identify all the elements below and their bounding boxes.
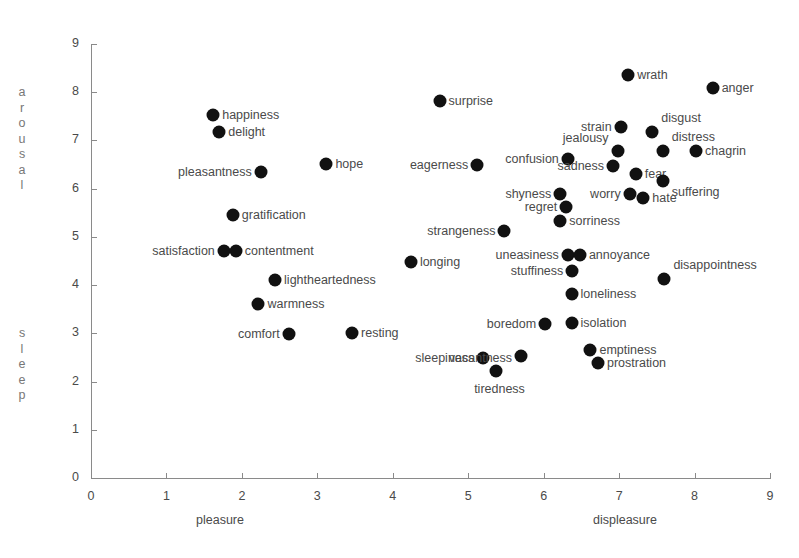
x-tick-label: 4 — [383, 489, 403, 503]
data-point-marker — [565, 287, 578, 300]
x-axis-left-label: pleasure — [196, 513, 244, 527]
data-point-label: strangeness — [427, 224, 495, 238]
y-tick-label: 7 — [59, 132, 79, 146]
data-point-label: chagrin — [705, 144, 746, 158]
y-tick-label: 9 — [59, 36, 79, 50]
data-point-label: lightheartedness — [284, 273, 376, 287]
x-axis-line — [91, 478, 771, 479]
data-point-marker — [217, 245, 230, 258]
data-point-marker — [320, 157, 333, 170]
x-tick-label: 1 — [156, 489, 176, 503]
data-point-marker — [623, 188, 636, 201]
data-point-label: distress — [672, 130, 715, 144]
data-point-marker — [269, 274, 282, 287]
y-axis-bottom-label: sleep — [14, 326, 30, 404]
data-point-label: regret — [525, 200, 558, 214]
data-point-marker — [611, 145, 624, 158]
y-axis-label-char: u — [14, 132, 30, 148]
data-point-label: disgust — [661, 111, 701, 125]
data-point-label: suffering — [672, 185, 720, 199]
x-tick-label: 8 — [685, 489, 705, 503]
data-point-marker — [614, 120, 627, 133]
data-point-marker — [226, 208, 239, 221]
data-point-label: vacantness — [449, 351, 512, 365]
data-point-marker — [658, 273, 671, 286]
x-axis-tick — [544, 473, 545, 479]
y-tick-label: 5 — [59, 229, 79, 243]
data-point-marker — [607, 159, 620, 172]
y-axis-top-label: arousal — [14, 85, 30, 194]
data-point-marker — [433, 94, 446, 107]
y-axis-tick — [91, 92, 97, 93]
data-point-label: warmness — [267, 297, 324, 311]
x-tick-label: 2 — [232, 489, 252, 503]
data-point-marker — [566, 264, 579, 277]
x-tick-label: 5 — [458, 489, 478, 503]
y-axis-tick — [91, 237, 97, 238]
y-tick-label: 3 — [59, 325, 79, 339]
y-axis-label-char: a — [14, 163, 30, 179]
data-point-marker — [656, 145, 669, 158]
x-tick-label: 0 — [81, 489, 101, 503]
y-axis-label-char: o — [14, 116, 30, 132]
y-axis-tick — [91, 189, 97, 190]
data-point-label: worry — [590, 187, 621, 201]
y-axis-label-char: e — [14, 373, 30, 389]
y-tick-label: 4 — [59, 277, 79, 291]
data-point-label: stuffiness — [511, 264, 564, 278]
data-point-marker — [282, 328, 295, 341]
data-point-marker — [490, 364, 503, 377]
x-tick-label: 7 — [609, 489, 629, 503]
data-point-marker — [646, 125, 659, 138]
data-point-label: confusion — [505, 152, 559, 166]
y-tick-label: 2 — [59, 374, 79, 388]
x-tick-label: 9 — [760, 489, 780, 503]
data-point-marker — [207, 109, 220, 122]
y-tick-label: 1 — [59, 422, 79, 436]
data-point-marker — [591, 357, 604, 370]
y-axis-tick — [91, 430, 97, 431]
data-point-marker — [471, 158, 484, 171]
x-axis-right-label: displeasure — [593, 513, 657, 527]
data-point-marker — [584, 344, 597, 357]
data-point-label: comfort — [238, 327, 280, 341]
y-axis-label-char: r — [14, 101, 30, 117]
x-axis-tick — [242, 473, 243, 479]
y-axis-label-char: p — [14, 388, 30, 404]
x-tick-label: 6 — [534, 489, 554, 503]
data-point-marker — [560, 200, 573, 213]
x-axis-tick — [695, 473, 696, 479]
y-axis-label-char: l — [14, 178, 30, 194]
data-point-label: hope — [335, 157, 363, 171]
data-point-marker — [539, 317, 552, 330]
x-axis-tick — [166, 473, 167, 479]
data-point-label: sorriness — [569, 214, 620, 228]
data-point-marker — [498, 225, 511, 238]
data-point-marker — [573, 249, 586, 262]
y-axis-tick — [91, 285, 97, 286]
data-point-label: delight — [228, 125, 265, 139]
data-point-label: isolation — [581, 316, 627, 330]
data-point-marker — [404, 255, 417, 268]
data-point-label: surprise — [449, 94, 493, 108]
data-point-marker — [637, 192, 650, 205]
data-point-marker — [254, 165, 267, 178]
data-point-label: contentment — [245, 244, 314, 258]
y-axis-label-char: l — [14, 342, 30, 358]
data-point-label: wrath — [637, 68, 668, 82]
data-point-label: uneasiness — [496, 248, 559, 262]
y-axis-label-char: a — [14, 85, 30, 101]
data-point-label: pleasantness — [178, 165, 252, 179]
data-point-marker — [561, 249, 574, 262]
data-point-marker — [622, 69, 635, 82]
y-axis-line — [91, 44, 92, 479]
x-axis-tick — [393, 473, 394, 479]
data-point-marker — [554, 215, 567, 228]
y-axis-label-char: e — [14, 357, 30, 373]
data-point-marker — [515, 350, 528, 363]
x-axis-tick — [468, 473, 469, 479]
y-axis-tick — [91, 140, 97, 141]
x-axis-tick — [770, 473, 771, 479]
data-point-label: boredom — [487, 317, 536, 331]
y-tick-label: 8 — [59, 84, 79, 98]
